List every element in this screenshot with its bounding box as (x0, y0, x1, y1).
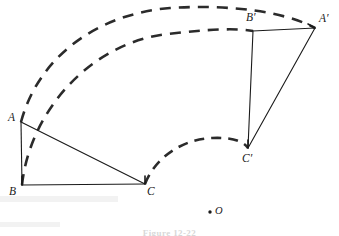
arc-B-to-B-prime-dashed (22, 29, 253, 185)
segment-bc (22, 184, 145, 185)
triangle-abc (21, 122, 145, 185)
segment-c-prime-a-prime (248, 28, 315, 148)
segment-ca (21, 122, 145, 184)
label-a: A (8, 112, 15, 124)
center-of-rotation-dot (208, 210, 211, 213)
label-c: C (147, 186, 155, 198)
label-center-o: O (215, 206, 223, 217)
arc-C-to-C-prime-dashed (145, 138, 248, 184)
label-a-prime: A′ (319, 13, 329, 25)
label-b: B (9, 186, 16, 198)
label-c-prime: C′ (242, 153, 252, 165)
geometry-diagram (0, 0, 339, 236)
label-b-prime: B′ (246, 12, 256, 24)
vertex-accents (22, 24, 315, 185)
triangle-abc-prime (248, 28, 315, 148)
figure-container: A B C A′ B′ C′ O Figure 12-22 (0, 0, 339, 236)
figure-caption: Figure 12-22 (0, 228, 339, 236)
segment-a-prime-b-prime (253, 28, 315, 31)
arc-group (21, 7, 315, 185)
arc-A-to-A-prime-dashed (21, 7, 315, 122)
segment-b-prime-c-prime (248, 31, 253, 148)
